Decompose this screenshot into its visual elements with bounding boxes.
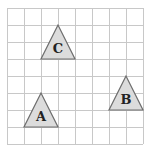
triangle-label: C [53, 41, 63, 56]
grid-diagram: CBA [0, 0, 149, 151]
triangle-label: B [121, 92, 132, 107]
triangle-label: A [35, 109, 47, 124]
grid-canvas: CBA [0, 0, 149, 151]
